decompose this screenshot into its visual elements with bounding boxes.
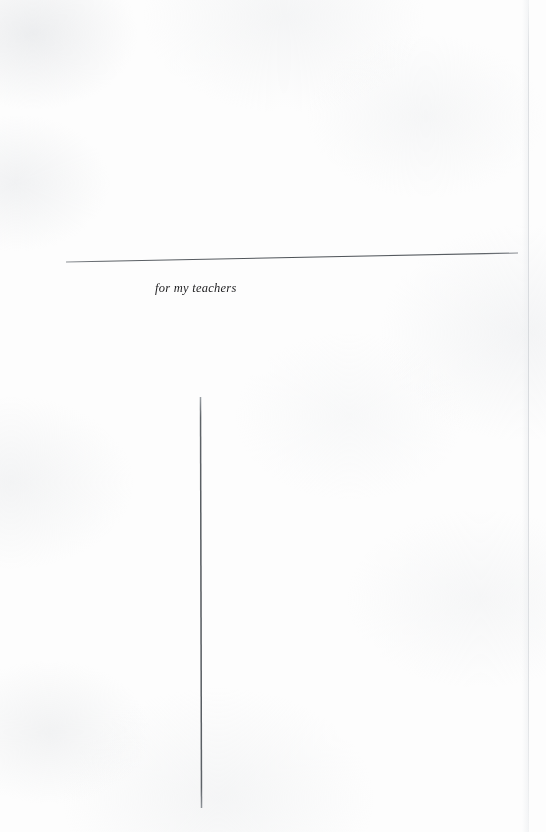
paper-texture (0, 0, 546, 832)
horizontal-rule (66, 253, 518, 262)
dedication-text: for my teachers (155, 281, 237, 297)
right-scan-edge (528, 0, 529, 832)
right-scan-edge-gradient (522, 0, 529, 832)
vertical-rule (201, 397, 202, 808)
dedication-page: for my teachers (0, 0, 546, 832)
rules-layer (0, 0, 546, 832)
